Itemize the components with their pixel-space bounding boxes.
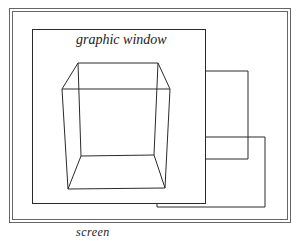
background-window-1[interactable] [205,71,248,159]
graphic-window[interactable] [33,30,206,204]
background-window-2[interactable] [157,137,265,207]
graphic-window-title: graphic window [76,32,167,48]
wireframe-cube [62,63,170,189]
screen-label: screen [76,225,110,240]
